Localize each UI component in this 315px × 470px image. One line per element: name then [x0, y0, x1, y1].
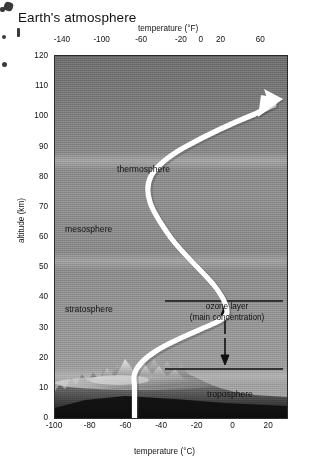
bottom-tick-label: 20 [264, 421, 273, 430]
top-tick-label: 20 [216, 35, 225, 44]
left-axis-title: altitude (km) [17, 186, 26, 256]
grain-overlay [55, 56, 287, 418]
top-tick-label: -100 [93, 35, 109, 44]
bottom-axis-title: temperature (°C) [134, 447, 195, 456]
scan-artifact-mark [0, 7, 5, 12]
label-stratosphere: stratosphere [65, 304, 113, 314]
bottom-tick-label: -80 [84, 421, 96, 430]
ozone-caption-line1: ozone layer [173, 302, 281, 313]
left-tick-label: 110 [24, 81, 48, 90]
bottom-tick-label: 0 [230, 421, 235, 430]
bottom-tick-label: -20 [191, 421, 203, 430]
label-mesosphere: mesosphere [65, 224, 112, 234]
plot-area: thermosphere mesosphere stratosphere tro… [54, 55, 288, 419]
bottom-tick-label: -100 [46, 421, 62, 430]
left-tick-label: 70 [24, 201, 48, 210]
left-tick-label: 20 [24, 352, 48, 361]
bottom-tick-label: -40 [155, 421, 167, 430]
label-thermosphere: thermosphere [117, 164, 170, 174]
top-tick-label: -140 [54, 35, 70, 44]
left-tick-label: 100 [24, 111, 48, 120]
left-tick-label: 80 [24, 171, 48, 180]
figure-root: Earth's atmosphere temperature (°F) temp… [0, 0, 315, 470]
label-troposphere: troposphere [207, 389, 253, 399]
top-axis-title: temperature (°F) [138, 24, 198, 33]
figure-title: Earth's atmosphere [18, 10, 136, 25]
left-tick-label: 120 [24, 51, 48, 60]
left-tick-label: 90 [24, 141, 48, 150]
left-tick-label: 0 [24, 413, 48, 422]
left-tick-label: 40 [24, 292, 48, 301]
scan-artifact-bullet [2, 35, 6, 39]
top-tick-label: -20 [175, 35, 187, 44]
ozone-layer-caption: ozone layer (main concentration) [173, 302, 281, 323]
top-tick-label: 0 [198, 35, 203, 44]
scan-artifact-bullet [2, 62, 7, 67]
left-tick-label: 60 [24, 232, 48, 241]
scan-artifact-mark [17, 28, 20, 37]
top-tick-label: -60 [135, 35, 147, 44]
left-tick-label: 50 [24, 262, 48, 271]
bottom-tick-label: -60 [119, 421, 131, 430]
left-tick-label: 10 [24, 382, 48, 391]
left-tick-label: 30 [24, 322, 48, 331]
top-tick-label: 60 [256, 35, 265, 44]
ozone-caption-line2: (main concentration) [173, 313, 281, 324]
